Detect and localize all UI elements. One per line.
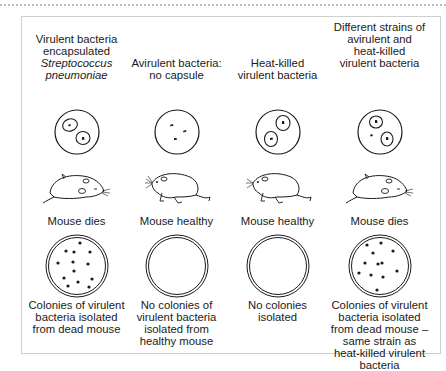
column-mixed: Different strains of avirulent and heat-… xyxy=(327,17,432,353)
column-title: Heat-killed virulent bacteria xyxy=(225,57,330,81)
title-line: Different strains of xyxy=(327,21,432,33)
title-line-italic: Streptococcus xyxy=(24,57,129,69)
result-text: No colonies isolated xyxy=(225,299,330,323)
culture-tube-icon xyxy=(253,107,303,157)
column-avirulent: Avirulent bacteria: no capsule Mouse hea… xyxy=(124,17,229,353)
title-line: avirulent and xyxy=(327,33,432,45)
healthy-mouse-icon xyxy=(142,167,212,207)
outcome-label: Mouse dies xyxy=(327,215,432,227)
petri-dish-colonies-icon xyxy=(44,233,110,299)
result-line: from dead mouse xyxy=(24,323,129,335)
result-line: bacteria isolated xyxy=(327,311,432,323)
column-title: Different strains of avirulent and heat-… xyxy=(327,21,432,69)
dead-mouse-icon xyxy=(42,167,112,207)
result-line: Colonies of virulent xyxy=(24,299,129,311)
culture-tube-icon xyxy=(152,107,202,157)
result-line: isolated xyxy=(225,311,330,323)
title-line: virulent bacteria xyxy=(225,69,330,81)
healthy-mouse-icon xyxy=(243,167,313,207)
result-line: from dead mouse – xyxy=(327,323,432,335)
title-line-italic: pneumoniae xyxy=(24,69,129,81)
result-line: Colonies of virulent xyxy=(327,299,432,311)
column-heat-killed: Heat-killed virulent bacteria Mouse heal… xyxy=(225,17,330,353)
title-line: virulent bacteria xyxy=(327,57,432,69)
result-text: Colonies of virulent bacteria isolated f… xyxy=(24,299,129,335)
result-text: No colonies of virulent bacteria isolate… xyxy=(124,299,229,347)
petri-dish-empty-icon xyxy=(245,233,311,299)
column-virulent: Virulent bacteria encapsulated Streptoco… xyxy=(24,17,129,353)
dotted-divider xyxy=(0,4,446,6)
result-text: Colonies of virulent bacteria isolated f… xyxy=(327,299,432,371)
culture-tube-icon xyxy=(355,107,405,157)
result-line: heat-killed virulent xyxy=(327,347,432,359)
outcome-label: Mouse healthy xyxy=(225,215,330,227)
result-line: No colonies xyxy=(225,299,330,311)
outcome-label: Mouse dies xyxy=(24,215,129,227)
dead-mouse-icon xyxy=(345,167,415,207)
title-line: encapsulated xyxy=(24,45,129,57)
title-line: no capsule xyxy=(124,69,229,81)
result-line: isolated from xyxy=(124,323,229,335)
culture-tube-icon xyxy=(52,107,102,157)
outcome-label: Mouse healthy xyxy=(124,215,229,227)
result-line: same strain as xyxy=(327,335,432,347)
petri-dish-colonies-icon xyxy=(347,233,413,299)
column-title: Virulent bacteria encapsulated Streptoco… xyxy=(24,33,129,81)
title-line: Heat-killed xyxy=(225,57,330,69)
result-line: No colonies of xyxy=(124,299,229,311)
column-title: Avirulent bacteria: no capsule xyxy=(124,57,229,81)
result-line: bacteria xyxy=(327,359,432,371)
result-line: healthy mouse xyxy=(124,335,229,347)
petri-dish-empty-icon xyxy=(144,233,210,299)
result-line: bacteria isolated xyxy=(24,311,129,323)
title-line: Avirulent bacteria: xyxy=(124,57,229,69)
diagram-frame: Virulent bacteria encapsulated Streptoco… xyxy=(21,16,441,354)
title-line: Virulent bacteria xyxy=(24,33,129,45)
title-line: heat-killed xyxy=(327,45,432,57)
result-line: virulent bacteria xyxy=(124,311,229,323)
